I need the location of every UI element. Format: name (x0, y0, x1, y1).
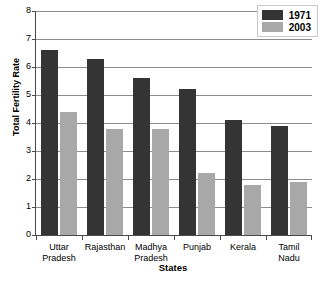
legend-label-2003: 2003 (289, 22, 311, 33)
x-axis-tick-mark (174, 235, 175, 240)
bar-1971 (41, 50, 58, 235)
y-axis-tick-label: 6 (1, 61, 36, 71)
legend: 1971 2003 (257, 5, 318, 37)
y-axis-tick-label: 4 (1, 117, 36, 127)
bar-2003 (60, 112, 77, 235)
bar-group (220, 11, 266, 235)
bar-group (82, 11, 128, 235)
legend-item-2003: 2003 (262, 21, 311, 33)
bar-2003 (244, 185, 261, 235)
bar-1971 (133, 78, 150, 235)
x-axis-tick-mark (82, 235, 83, 240)
x-axis-label: Punjab (183, 242, 211, 253)
bar-2003 (290, 182, 307, 235)
x-axis-tick-mark (266, 235, 267, 240)
x-axis-label-line: Kerala (230, 242, 256, 253)
legend-label-1971: 1971 (289, 10, 311, 21)
x-axis-label-line: Punjab (183, 242, 211, 253)
legend-swatch-1971 (262, 10, 283, 20)
x-axis-label: UttarPradesh (42, 242, 76, 264)
bar-group (266, 11, 312, 235)
x-axis-label-line: Uttar (42, 242, 76, 253)
x-axis-label: Rajasthan (85, 242, 126, 253)
bar-group (36, 11, 82, 235)
x-axis-label-line: Madhya (134, 242, 168, 253)
x-axis-label: Kerala (230, 242, 256, 253)
x-axis-label: MadhyaPradesh (134, 242, 168, 264)
y-axis-tick-label: 3 (1, 145, 36, 155)
bar-group (174, 11, 220, 235)
y-axis-tick-label: 2 (1, 173, 36, 183)
y-axis-tick-label: 0 (1, 229, 36, 239)
y-axis-tick-label: 8 (1, 5, 36, 15)
bar-2003 (198, 173, 215, 235)
x-axis-title: States (35, 262, 311, 273)
bar-2003 (152, 129, 169, 235)
y-axis-tick-label: 7 (1, 33, 36, 43)
x-axis-label-line: Tamil (278, 242, 300, 253)
bar-2003 (106, 129, 123, 235)
plot-area: 012345678 UttarPradeshRajasthanMadhyaPra… (35, 11, 312, 236)
bar-1971 (179, 89, 196, 235)
bar-chart: Total Fertility Rate 012345678 UttarPrad… (0, 0, 324, 282)
x-axis-tick-mark (311, 235, 312, 240)
y-axis-tick-label: 1 (1, 201, 36, 211)
legend-swatch-2003 (262, 22, 283, 32)
x-axis-tick-mark (128, 235, 129, 240)
legend-item-1971: 1971 (262, 9, 311, 21)
bar-1971 (87, 59, 104, 235)
x-axis-label: TamilNadu (278, 242, 300, 264)
bar-series-container (36, 11, 312, 235)
y-axis-tick-label: 5 (1, 89, 36, 99)
x-axis-label-line: Rajasthan (85, 242, 126, 253)
bar-1971 (225, 120, 242, 235)
bar-1971 (271, 126, 288, 235)
x-axis-tick-mark (220, 235, 221, 240)
bar-group (128, 11, 174, 235)
x-axis-tick-mark (36, 235, 37, 240)
